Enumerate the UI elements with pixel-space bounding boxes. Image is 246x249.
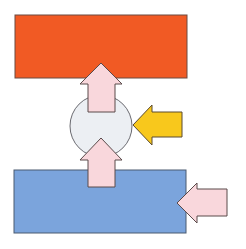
arrow-left-yellow-icon [133, 105, 182, 145]
diagram-canvas [0, 0, 246, 249]
